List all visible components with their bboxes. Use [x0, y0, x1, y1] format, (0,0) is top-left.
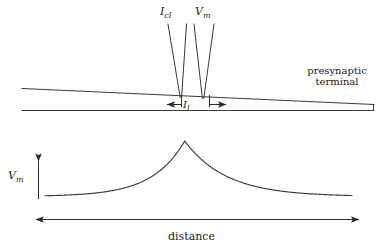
electrode-v-m: [194, 24, 214, 98]
presynaptic-terminal-shape: [22, 89, 374, 111]
presynaptic-terminal-label-line2: terminal: [316, 76, 359, 87]
electrode-separation-label: Il: [183, 99, 190, 110]
presynaptic-terminal-label: presynaptic terminal: [300, 65, 374, 87]
electrode-separation-label-subscript: l: [187, 104, 190, 113]
x-axis-label: distance: [0, 231, 383, 243]
electrode-i-cl: [168, 24, 187, 98]
electrode-i-cl-left-wall: [168, 24, 180, 98]
electrode-v-m-right-wall: [204, 24, 214, 98]
presynaptic-terminal-figure: Icl Vm Il presynaptic terminal Vm distan…: [0, 0, 383, 252]
y-axis-label: Vm: [8, 170, 24, 182]
figure-vector-layer: [0, 0, 383, 252]
electrode-label-v-m-subscript: m: [203, 11, 211, 20]
electrode-i-cl-right-wall: [182, 24, 187, 98]
membrane-upper-line: [22, 89, 374, 105]
electrode-label-i-cl: Icl: [160, 6, 171, 18]
electrode-label-i-cl-subscript: cl: [164, 11, 171, 20]
electrode-label-v-m: Vm: [195, 6, 211, 18]
electrode-v-m-left-wall: [194, 24, 202, 98]
plot-axes: [36, 161, 359, 220]
membrane-potential-curve: [45, 141, 352, 196]
y-axis-label-subscript: m: [16, 175, 24, 184]
presynaptic-terminal-label-line1: presynaptic: [307, 65, 367, 76]
y-axis-label-base: V: [8, 169, 16, 182]
electrode-label-v-m-base: V: [195, 5, 203, 18]
